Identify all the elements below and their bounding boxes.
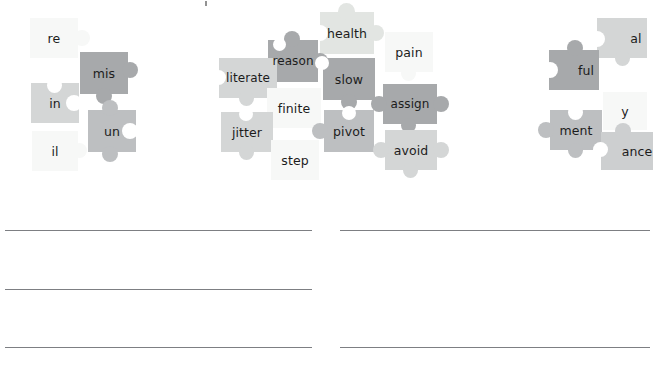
piece-shape [30, 18, 78, 58]
answer-line-6[interactable] [340, 347, 650, 348]
piece-notch-right [122, 123, 138, 139]
puzzle-piece-mis[interactable]: mis [80, 52, 128, 94]
piece-notch-topleft [273, 38, 286, 51]
answer-line-1[interactable] [5, 230, 312, 231]
piece-knob-top [615, 123, 631, 139]
puzzle-piece-avoid[interactable]: avoid [385, 130, 437, 170]
piece-knob-bottom [403, 163, 418, 178]
piece-notch-left [312, 25, 328, 41]
answer-lines-area [0, 200, 655, 381]
puzzle-piece-al[interactable]: al [597, 18, 647, 58]
puzzle-piece-slow[interactable]: slow [323, 58, 375, 100]
puzzle-piece-un[interactable]: un [88, 110, 136, 152]
piece-notch-right [66, 95, 82, 111]
piece-knob-left [373, 142, 389, 158]
piece-knob-bottom [568, 143, 583, 158]
piece-knob-left [538, 122, 554, 138]
puzzle-group-prefixes: re mis in un [0, 0, 200, 200]
puzzle-piece-pain[interactable]: pain [385, 32, 433, 72]
answer-line-2[interactable] [340, 230, 650, 231]
puzzle-piece-ance[interactable]: ance [601, 132, 653, 170]
puzzle-piece-jitter[interactable]: jitter [221, 112, 273, 152]
piece-knob-right [74, 30, 90, 46]
puzzle-piece-finite[interactable]: finite [267, 88, 321, 128]
piece-knob-top [338, 3, 355, 20]
piece-notch-left [589, 31, 605, 47]
piece-knob-bottom [239, 145, 254, 160]
piece-knob-right [72, 143, 87, 158]
piece-knob-right [368, 25, 384, 41]
puzzle-group-roots: health reason pain literate [205, 0, 465, 200]
puzzle-piece-il[interactable]: il [32, 131, 78, 171]
worksheet-page: re mis in un [0, 0, 655, 381]
puzzle-piece-step[interactable]: step [271, 140, 319, 180]
puzzle-piece-ful[interactable]: ful [549, 50, 599, 90]
puzzle-piece-in[interactable]: in [31, 83, 79, 123]
piece-notch-left [315, 56, 329, 70]
piece-knob-bottom [615, 51, 630, 66]
piece-knob-left [312, 123, 328, 139]
piece-knob-bottom [102, 146, 118, 162]
piece-knob-right [122, 62, 138, 78]
puzzle-piece-pivot[interactable]: pivot [324, 110, 374, 152]
piece-knob-bottom [239, 91, 254, 106]
answer-line-5[interactable] [5, 347, 312, 348]
piece-notch-left [211, 70, 226, 85]
piece-knob-right [433, 142, 449, 158]
piece-knob-top [47, 78, 62, 93]
piece-notch-left [542, 62, 558, 78]
piece-knob-top [568, 105, 583, 120]
piece-shape [267, 88, 321, 128]
puzzle-piece-health[interactable]: health [320, 12, 374, 54]
puzzle-piece-re[interactable]: re [30, 18, 78, 58]
piece-knob-top [239, 107, 253, 121]
piece-knob-top [342, 106, 356, 120]
answer-line-3[interactable] [5, 289, 312, 290]
piece-knob-top [567, 40, 583, 56]
puzzle-group-suffixes: al ful y ment [535, 0, 655, 200]
piece-shape [271, 140, 319, 180]
piece-knob-top [284, 31, 300, 47]
piece-knob-right [433, 96, 449, 112]
piece-knob-bottom [401, 66, 416, 81]
piece-notch-left [593, 142, 608, 157]
piece-knob-top [102, 100, 118, 116]
puzzle-pieces-area: re mis in un [0, 0, 655, 200]
puzzle-piece-assign[interactable]: assign [383, 84, 437, 124]
